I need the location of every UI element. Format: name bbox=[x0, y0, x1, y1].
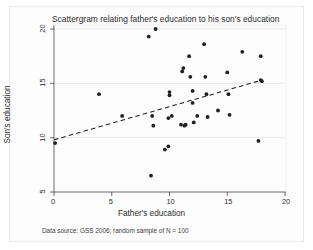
x-tick-label: 15 bbox=[224, 197, 232, 206]
y-tick-label: 20 bbox=[38, 23, 47, 35]
chart-title: Scattergram relating father's education … bbox=[52, 14, 279, 24]
x-tick-label: 5 bbox=[109, 197, 113, 206]
x-tick-label: 0 bbox=[51, 197, 55, 206]
figure-container: Scattergram relating father's education … bbox=[0, 0, 313, 250]
y-tick-label: 15 bbox=[38, 77, 47, 89]
x-tick-label: 20 bbox=[282, 197, 290, 206]
x-tick-label: 10 bbox=[167, 197, 175, 206]
x-axis-title: Father's education bbox=[118, 209, 185, 218]
axis-ticks bbox=[50, 29, 285, 196]
y-axis-title: Son's education bbox=[3, 85, 12, 143]
source-note: Data source: GSS 2006; random sample of … bbox=[42, 227, 189, 234]
y-tick-label: 10 bbox=[38, 131, 47, 143]
y-tick-label: 5 bbox=[38, 186, 47, 198]
plot-axes bbox=[54, 25, 286, 192]
data-points bbox=[53, 27, 264, 178]
fit-line bbox=[54, 80, 262, 140]
